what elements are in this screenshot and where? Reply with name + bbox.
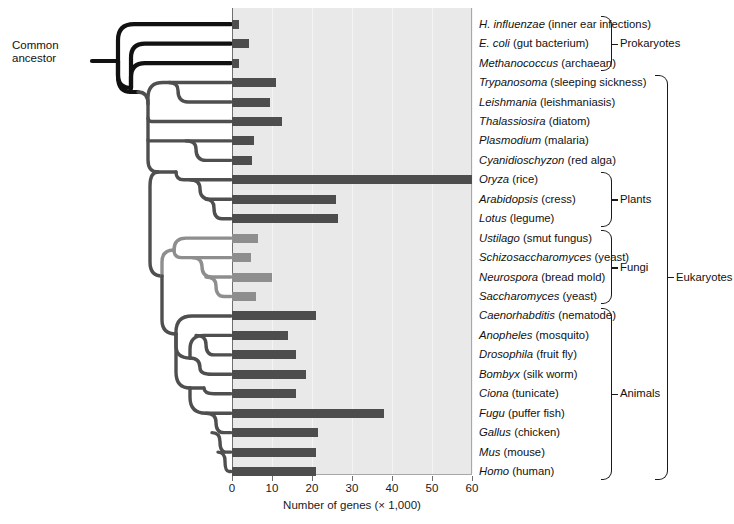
bar-caenorhabditis [232, 311, 316, 320]
taxon-label-drosophila: Drosophila (fruit fly) [479, 348, 577, 360]
taxon-genus: Gallus [479, 426, 511, 438]
x-tick-label-20: 20 [292, 482, 332, 494]
common-ancestor-line1: Common [12, 39, 59, 51]
common-ancestor-label: Common ancestor [12, 39, 90, 65]
gridline-30 [352, 8, 353, 474]
gridline-40 [392, 8, 393, 474]
taxon-common-name: (cress) [538, 193, 576, 205]
taxon-common-name: (human) [509, 465, 554, 477]
taxon-label-saccharomyces: Saccharomyces (yeast) [479, 290, 597, 302]
group-bracket-tick-fungi [612, 267, 618, 268]
x-tick-40 [392, 476, 393, 481]
taxon-label-cyanidioschyzon: Cyanidioschyzon (red alga) [479, 154, 616, 166]
taxon-common-name: (tunicate) [509, 387, 559, 399]
taxon-genus: Cyanidioschyzon [479, 154, 564, 166]
x-tick-0 [232, 476, 233, 481]
taxon-common-name: (diatom) [546, 115, 591, 127]
group-bracket-animals [601, 308, 612, 480]
group-bracket-tick-eukaryotes [668, 277, 674, 278]
group-bracket-plants [601, 172, 612, 227]
x-axis-title: Number of genes (× 1,000) [232, 499, 472, 511]
taxon-label-mus: Mus (mouse) [479, 446, 545, 458]
taxon-label-ustilago: Ustilago (smut fungus) [479, 232, 592, 244]
bar-plasmodium [232, 136, 254, 145]
taxon-label-bombyx: Bombyx (silk worm) [479, 368, 578, 380]
bar-neurospora [232, 273, 272, 282]
x-tick-30 [352, 476, 353, 481]
bar-methanococcus [232, 59, 239, 68]
bar-cyanidioschyzon [232, 156, 252, 165]
taxon-label-neurospora: Neurospora (bread mold) [479, 271, 605, 283]
taxon-label-leishmania: Leishmania (leishmaniasis) [479, 96, 615, 108]
taxon-label-plasmodium: Plasmodium (malaria) [479, 134, 589, 146]
group-label-eukaryotes: Eukaryotes [676, 271, 733, 283]
taxon-label-anopheles: Anopheles (mosquito) [479, 329, 589, 341]
taxon-label-lotus: Lotus (legume) [479, 212, 554, 224]
taxon-common-name: (legume) [507, 212, 555, 224]
taxon-common-name: (mouse) [500, 446, 545, 458]
x-tick-20 [312, 476, 313, 481]
taxon-label-oryza: Oryza (rice) [479, 173, 538, 185]
taxon-common-name: (silk worm) [520, 368, 578, 380]
gridline-20 [312, 8, 313, 474]
taxon-genus: Oryza [479, 173, 509, 185]
group-label-prokaryotes: Prokaryotes [620, 37, 680, 49]
taxon-common-name: (smut fungus) [520, 232, 592, 244]
group-bracket-fungi [601, 230, 612, 304]
taxon-label-thalassiosira: Thalassiosira (diatom) [479, 115, 590, 127]
taxon-label-homo: Homo (human) [479, 465, 554, 477]
group-bracket-tick-animals [612, 394, 618, 395]
taxon-genus: Methanococcus [479, 57, 558, 69]
x-tick-60 [472, 476, 473, 481]
x-tick-50 [432, 476, 433, 481]
taxon-genus: Neurospora [479, 271, 538, 283]
taxon-label-ciona: Ciona (tunicate) [479, 387, 559, 399]
x-tick-label-40: 40 [372, 482, 412, 494]
bar-bombyx [232, 370, 306, 379]
bar-h-influenzae [232, 20, 239, 29]
taxon-label-methanococcus: Methanococcus (archaean) [479, 57, 616, 69]
bar-anopheles [232, 331, 288, 340]
bar-thalassiosira [232, 117, 282, 126]
group-bracket-prokaryotes [601, 16, 612, 71]
bar-homo [232, 467, 316, 476]
taxon-label-arabidopsis: Arabidopsis (cress) [479, 193, 576, 205]
taxon-genus: Caenorhabditis [479, 309, 555, 321]
bar-oryza [232, 175, 472, 184]
taxon-genus: Plasmodium [479, 134, 541, 146]
gene-count-phylogeny-figure: Common ancestor 0102030405060H. influenz… [0, 0, 734, 524]
taxon-label-h-influenzae: H. influenzae (inner ear infections) [479, 18, 651, 30]
taxon-genus: Schizosaccharomyces [479, 251, 591, 263]
taxon-genus: Drosophila [479, 348, 533, 360]
taxon-genus: Bombyx [479, 368, 520, 380]
taxon-genus: Leishmania [479, 96, 537, 108]
group-label-fungi: Fungi [620, 261, 648, 273]
bar-saccharomyces [232, 292, 256, 301]
bar-drosophila [232, 350, 296, 359]
bar-e-coli [232, 39, 249, 48]
taxon-common-name: (rice) [509, 173, 538, 185]
taxon-common-name: (malaria) [541, 134, 589, 146]
taxon-genus: Ciona [479, 387, 509, 399]
x-tick-label-10: 10 [252, 482, 292, 494]
bar-ustilago [232, 234, 258, 243]
taxon-label-e-coli: E. coli (gut bacterium) [479, 37, 589, 49]
bar-trypanosoma [232, 78, 276, 87]
taxon-label-trypanosoma: Trypanosoma (sleeping sickness) [479, 76, 646, 88]
common-ancestor-line2: ancestor [12, 52, 56, 64]
taxon-genus: Trypanosoma [479, 76, 547, 88]
gridline-60 [472, 8, 473, 474]
taxon-genus: Lotus [479, 212, 507, 224]
taxon-genus: Anopheles [479, 329, 532, 341]
taxon-genus: Arabidopsis [479, 193, 538, 205]
taxon-common-name: (yeast) [559, 290, 597, 302]
taxon-common-name: (sleeping sickness) [547, 76, 646, 88]
taxon-genus: Thalassiosira [479, 115, 546, 127]
x-tick-10 [272, 476, 273, 481]
group-label-plants: Plants [620, 193, 651, 205]
taxon-common-name: (inner ear infections) [545, 18, 651, 30]
group-bracket-tick-plants [612, 199, 618, 200]
x-tick-label-0: 0 [212, 482, 252, 494]
taxon-label-caenorhabditis: Caenorhabditis (nematode) [479, 309, 616, 321]
x-tick-label-50: 50 [412, 482, 452, 494]
